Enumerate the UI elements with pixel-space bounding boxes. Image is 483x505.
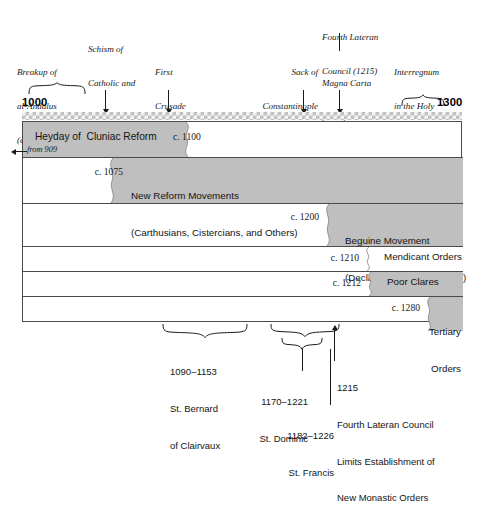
bar-zigzag-edge [106,158,119,203]
event-line: Interregnum [394,67,478,78]
bar-date-cluniac-reform: c. 1100 [173,131,213,142]
bar-zigzag-edge [322,204,335,246]
event-line: Catholic and [88,78,154,89]
annotation-st-bernard: 1090–1153 St. Bernard of Clairvaux [170,342,220,476]
marker-arrow-first-crusade [168,90,169,109]
annotation-line: 1215 [337,382,435,394]
bar-date-mendicant-orders: c. 1210 [319,252,359,263]
event-line: First [155,67,233,78]
annotation-line: 1090–1153 [170,366,220,378]
event-line: Sack of [242,67,318,78]
from-909-arrow [12,151,27,152]
bar-zigzag-edge [362,247,375,271]
timeline-checker-band [22,112,462,120]
bar-label-new-reform-movements: New Reform Movements (Carthusians, Ciste… [131,165,298,264]
bar-date-tertiary-orders: c. 1280 [380,302,420,313]
annotation-line: St. Bernard [170,403,220,415]
annotation-line: Fourth Lateran Council [337,419,435,431]
bar-date-poor-clares: c. 1212 [321,277,361,288]
row-divider [23,296,463,297]
leader-st-dominic [302,349,303,371]
event-line: Fourth Lateran [322,32,408,43]
marker-arrow-magna-carta [339,90,340,109]
event-line: Magna Carta [322,78,388,89]
annotation-line: St. Francis [262,467,334,479]
bar-date-beguine-movement: c. 1200 [279,211,319,222]
bar-date-new-reform-movements: c. 1075 [83,166,123,177]
annotation-line: 1182–1226 [262,430,334,442]
leader-st-francis [330,349,331,405]
annotation-st-francis: 1182–1226 St. Francis [262,406,334,504]
brace-dominic-francis [281,338,327,350]
leader-fourth-lateran-note [334,329,335,361]
annotation-fourth-lateran-limits: 1215 Fourth Lateran Council Limits Estab… [337,358,435,505]
timeline-chart-frame: Heyday of Cluniac Reform c. 1100 from 90… [22,121,462,322]
bar-zigzag-edge [364,272,377,296]
marker-arrow-sack-constantinople [303,90,304,109]
marker-tick-fourth-lateran [339,33,340,51]
event-line: Schism of [88,44,154,55]
axis-end-year: 1300 [437,96,462,108]
annotation-line: New Monastic Orders [337,492,435,504]
annotation-line: of Clairvaux [170,440,220,452]
bar-label-poor-clares: Poor Clares [387,276,439,288]
brace-st-bernard [162,324,250,338]
bar-label-cluniac-reform: Heyday of Cluniac Reform [35,131,157,142]
event-line: Constantinople [242,101,318,112]
axis-start-year: 1000 [22,96,47,108]
bar-label-line: New Reform Movements [131,190,298,202]
annotation-line: Limits Establishment of [337,456,435,468]
bar-label-mendicant-orders: Mendicant Orders [384,251,462,263]
bar-note-from-909: from 909 [27,145,57,154]
brace-breakup-al-andalus [28,82,86,94]
bar-label-line: Tertiary [415,326,461,338]
leader-arrowhead-fourth-lateran [332,325,338,330]
marker-arrow-schism [105,90,106,109]
bar-label-line: (Carthusians, Cistercians, and Others) [131,227,298,239]
